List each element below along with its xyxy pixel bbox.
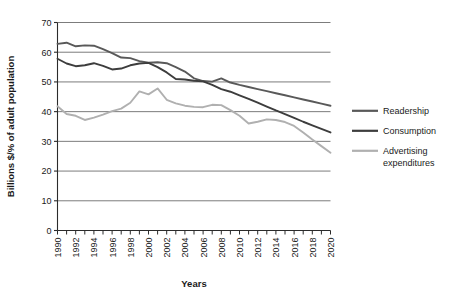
data-series-group bbox=[58, 43, 331, 153]
legend-label: Readership bbox=[383, 106, 429, 116]
y-tick-label: 20 bbox=[41, 166, 51, 176]
legend-label: expenditures bbox=[383, 158, 435, 168]
chart-canvas: 0102030405060701990199219941996199820002… bbox=[0, 0, 456, 293]
x-tick-label: 2018 bbox=[308, 238, 318, 258]
x-tick-label: 2014 bbox=[271, 238, 281, 258]
x-tick-label: 2016 bbox=[290, 238, 300, 258]
x-axis-title: Years bbox=[181, 278, 206, 289]
y-tick-label: 0 bbox=[46, 226, 51, 236]
x-tick-label: 2020 bbox=[326, 238, 336, 258]
legend-label: Advertising bbox=[383, 146, 428, 156]
gridlines bbox=[58, 23, 331, 201]
y-tick-label: 70 bbox=[41, 18, 51, 28]
y-axis-title: Billions $/% of adult population bbox=[5, 56, 16, 198]
line-chart: 0102030405060701990199219941996199820002… bbox=[0, 0, 456, 293]
y-tick-label: 50 bbox=[41, 77, 51, 87]
x-tick-label: 1992 bbox=[71, 238, 81, 258]
y-tick-label: 30 bbox=[41, 137, 51, 147]
y-tick-label: 10 bbox=[41, 196, 51, 206]
x-axis-tick-labels: 1990199219941996199820002002200420062008… bbox=[53, 238, 336, 258]
x-tick-label: 2002 bbox=[162, 238, 172, 258]
x-tick-label: 2012 bbox=[253, 238, 263, 258]
x-tick-label: 2000 bbox=[144, 238, 154, 258]
x-tick-label: 2010 bbox=[235, 238, 245, 258]
x-tick-label: 1990 bbox=[53, 238, 63, 258]
x-tick-label: 2008 bbox=[217, 238, 227, 258]
legend: ReadershipConsumptionAdvertisingexpendit… bbox=[352, 106, 436, 168]
y-tick-label: 60 bbox=[41, 48, 51, 58]
legend-label: Consumption bbox=[383, 126, 436, 136]
x-tick-label: 2004 bbox=[180, 238, 190, 258]
y-axis-ticks: 010203040506070 bbox=[41, 18, 57, 236]
x-tick-label: 2006 bbox=[199, 238, 209, 258]
series-line-advertising-expenditures bbox=[58, 88, 331, 152]
x-axis-ticks bbox=[58, 231, 331, 235]
x-tick-label: 1996 bbox=[108, 238, 118, 258]
x-tick-label: 1998 bbox=[126, 238, 136, 258]
x-tick-label: 1994 bbox=[89, 238, 99, 258]
y-tick-label: 40 bbox=[41, 107, 51, 117]
